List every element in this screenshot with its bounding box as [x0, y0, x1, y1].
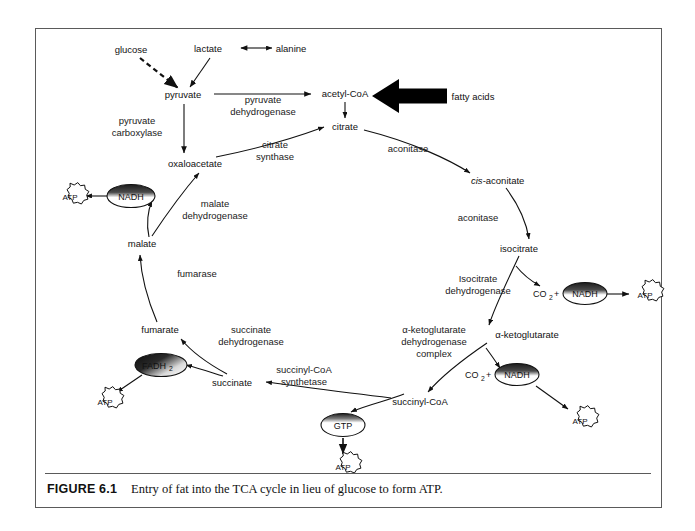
- label-isocitrate: isocitrate: [500, 243, 538, 254]
- co2-nadh-akg: CO 2 + NADH: [465, 364, 539, 386]
- enzyme-succinyl-coa-synthetase-l1: succinyl-CoA: [276, 364, 332, 375]
- arrow-nadh-atp-akg: [536, 386, 568, 409]
- carrier-fadh2-subscript: 2: [169, 365, 173, 372]
- arrow-succinate-fadh2: [186, 365, 223, 376]
- atp-akg-label: ATP: [573, 417, 588, 426]
- enzyme-fumarase: fumarase: [177, 268, 217, 279]
- enzyme-succinate-dehydrogenase-l2: dehydrogenase: [218, 336, 284, 347]
- label-oxaloacetate: oxaloacetate: [168, 158, 222, 169]
- metabolite-labels: glucose lactate alanine pyruvate acetyl-…: [115, 43, 559, 407]
- label-acetyl-coa: acetyl-CoA: [322, 88, 369, 99]
- carrier-nadh-akg-label: NADH: [504, 370, 530, 380]
- arrow-glucose-pyruvate: [140, 58, 178, 88]
- label-alanine: alanine: [276, 43, 307, 54]
- reaction-arrows: [86, 48, 629, 454]
- fatty-acids-block-arrow: [372, 79, 447, 113]
- label-cis-aconitate: cis-aconitate: [471, 175, 524, 186]
- enzyme-aconitase-1: aconitase: [388, 143, 429, 154]
- enzyme-succinate-dehydrogenase-l1: succinate: [231, 324, 271, 335]
- enzyme-isocitrate-dehydrogenase-l1: Isocitrate: [459, 273, 498, 284]
- label-lactate: lactate: [194, 43, 222, 54]
- caption-rule: [45, 473, 651, 474]
- carrier-bubbles: NADH FADH 2 GTP CO 2 + NADH: [107, 185, 607, 437]
- arrow-fadh2-atp: [117, 375, 142, 392]
- arrow-isocitrate-co2nadh: [516, 266, 540, 286]
- atp-fadh2-label: ATP: [98, 398, 113, 407]
- co2-akg-sub: 2: [481, 375, 485, 382]
- label-succinyl-coa: succinyl-CoA: [392, 396, 448, 407]
- enzyme-citrate-synthase-l1: citrate: [262, 139, 288, 150]
- label-citrate: citrate: [332, 121, 358, 132]
- label-cis-italic: cis: [471, 175, 483, 186]
- tca-cycle-diagram: glucose lactate alanine pyruvate acetyl-…: [0, 0, 695, 531]
- label-aconitate-rest: -aconitate: [483, 175, 525, 186]
- carrier-nadh-isocitrate-label: NADH: [572, 289, 598, 299]
- co2-isocitrate-main: CO: [533, 289, 547, 299]
- atp-fadh2-burst: ATP: [98, 387, 124, 408]
- enzyme-pyruvate-carboxylase-l2: carboxylase: [112, 127, 163, 138]
- enzyme-labels: pyruvate dehydrogenase pyruvate carboxyl…: [112, 94, 511, 387]
- figure-caption-area: FIGURE 6.1 Entry of fat into the TCA cyc…: [36, 472, 660, 506]
- enzyme-pyruvate-dehydrogenase-l1: pyruvate: [245, 94, 281, 105]
- enzyme-aconitase-2: aconitase: [458, 212, 499, 223]
- figure-number: FIGURE 6.1: [47, 482, 117, 496]
- figure-caption-text: Entry of fat into the TCA cycle in lieu …: [131, 482, 443, 497]
- label-malate: malate: [128, 238, 157, 249]
- atp-akg-burst: ATP: [573, 406, 599, 427]
- enzyme-malate-dehydrogenase-l1: malate: [201, 198, 230, 209]
- enzyme-malate-dehydrogenase-l2: dehydrogenase: [182, 210, 248, 221]
- enzyme-succinyl-coa-synthetase-l2: synthetase: [281, 376, 327, 387]
- atp-malate-burst: ATP: [63, 183, 89, 204]
- enzyme-citrate-synthase-l2: synthase: [256, 151, 294, 162]
- enzyme-pyruvate-carboxylase-l1: pyruvate: [119, 115, 155, 126]
- atp-gtp-label: ATP: [336, 463, 351, 472]
- label-fumarate: fumarate: [141, 324, 179, 335]
- label-fatty-acids: fatty acids: [452, 91, 495, 102]
- arrow-malate-nadh: [148, 201, 152, 237]
- label-glucose: glucose: [115, 44, 148, 55]
- atp-gtp-burst: ATP: [336, 452, 362, 473]
- enzyme-akg-complex-l3: complex: [416, 348, 452, 359]
- label-pyruvate: pyruvate: [165, 89, 201, 100]
- arrow-akg-co2nadh: [486, 348, 500, 368]
- arrow-cisaconitate-isocitrate: [506, 188, 529, 239]
- co2-akg-main: CO: [465, 370, 479, 380]
- label-alpha-ketoglutarate: α-ketoglutarate: [495, 329, 559, 340]
- carrier-nadh-malate-label: NADH: [118, 192, 144, 202]
- atp-isocitrate-burst: ATP: [638, 280, 664, 301]
- carrier-fadh2-label: FADH: [142, 361, 166, 371]
- carrier-gtp: GTP: [321, 414, 365, 437]
- enzyme-akg-complex-l2: dehydrogenase: [401, 336, 467, 347]
- carrier-gtp-label: GTP: [334, 421, 353, 431]
- enzyme-pyruvate-dehydrogenase-l2: dehydrogenase: [230, 106, 296, 117]
- co2-nadh-isocitrate: CO 2 + NADH: [533, 283, 607, 305]
- carrier-nadh-malate: NADH: [107, 185, 155, 208]
- label-succinate: succinate: [212, 377, 252, 388]
- plus-akg: +: [486, 370, 491, 380]
- enzyme-akg-complex-l1: α-ketoglutarate: [402, 324, 466, 335]
- carrier-fadh2: FADH 2: [135, 354, 187, 377]
- atp-isocitrate-label: ATP: [638, 291, 653, 300]
- atp-malate-label: ATP: [63, 193, 78, 202]
- arrow-malate-oxaloacetate: [152, 173, 199, 236]
- plus-isocitrate: +: [554, 289, 559, 299]
- co2-isocitrate-sub: 2: [549, 294, 553, 301]
- enzyme-isocitrate-dehydrogenase-l2: dehydrogenase: [445, 285, 511, 296]
- arrow-fumarate-malate: [140, 255, 157, 322]
- figure-page: glucose lactate alanine pyruvate acetyl-…: [0, 0, 695, 531]
- arrow-lactate-pyruvate: [190, 58, 210, 87]
